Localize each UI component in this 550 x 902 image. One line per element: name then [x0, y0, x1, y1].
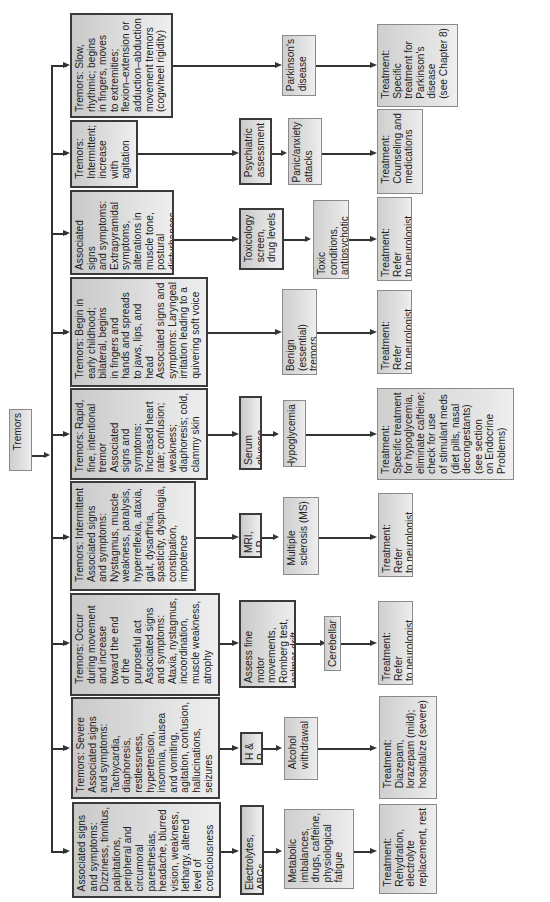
trunk-line [51, 65, 53, 852]
arrow-icon [232, 431, 239, 437]
arrow-icon [63, 230, 70, 236]
branch-8-symptoms: Associated signs and symptoms: Dizziness… [72, 802, 221, 898]
arrow-icon [273, 431, 279, 437]
arrow-icon [370, 431, 377, 437]
branch-1-symptoms: Tremors: Intermittent; increase with agi… [70, 120, 138, 188]
branch-0-symptoms: Tremors: Slow, rhythmic; begins in finge… [70, 13, 173, 118]
connector [173, 65, 276, 67]
arrow-icon [370, 150, 377, 156]
branch-3-symptoms: Tremors: Begin in early childhood; bilat… [70, 277, 208, 387]
arrow-icon [370, 329, 377, 335]
connector [306, 434, 371, 436]
connector [208, 434, 233, 436]
arrow-icon [44, 452, 50, 458]
arrow-icon [370, 62, 377, 68]
arrow-icon [232, 745, 239, 751]
connector [174, 239, 233, 241]
arrow-icon [63, 848, 70, 854]
arrow-icon [305, 236, 311, 242]
branch-3-treatment: Treatment: Refer to neurologist [377, 290, 412, 374]
connector [296, 643, 322, 645]
branch-6-diagnosis: Cerebellar [324, 616, 341, 671]
branch-2-diagnosis: Toxic conditions, antipsychotic drugs, c… [313, 200, 349, 279]
branch-6-treatment: Treatment: Refer to neurologist [378, 601, 413, 685]
arrow-icon [370, 640, 377, 646]
branch-5-test: MRI, LP [239, 513, 262, 558]
branch-8-test: Electrolytes, ABGs [240, 805, 264, 895]
branch-8-diagnosis: Metabolic imbalances, drugs, caffeine, p… [284, 809, 354, 889]
arrow-icon [276, 745, 282, 751]
branch-6-test: Assess fine motor movements, Romberg tes… [239, 600, 296, 688]
arrow-icon [275, 62, 282, 68]
connector [354, 851, 371, 853]
arrow-icon [275, 329, 282, 335]
branch-4-test: Serum glucose [239, 396, 262, 470]
root-node-tremors: Tremors [9, 409, 32, 471]
branch-1-diagnosis: Panic/anxiety attacks [288, 118, 322, 185]
arrow-icon [232, 236, 239, 242]
branch-4-symptoms: Tremors: Rapid, fine, intentional tremor… [70, 388, 208, 480]
branch-4-diagnosis: Hypoglycemia [283, 400, 306, 467]
branch-0-diagnosis: Parkinson's disease [282, 35, 316, 96]
branch-3-diagnosis: Benign (essential) tremors [282, 289, 317, 375]
branch-5-treatment: Treatment: Refer to neurologist [378, 493, 413, 577]
arrow-icon [63, 534, 70, 540]
branch-4-treatment: Treatment: Specific treatment for hypogl… [377, 388, 514, 480]
connector [322, 153, 371, 155]
branch-7-diagnosis: Alcohol withdrawal [284, 717, 318, 780]
connector [284, 239, 306, 241]
connector [318, 748, 371, 750]
arrow-icon [63, 640, 70, 646]
connector [196, 537, 233, 539]
arrow-icon [63, 329, 70, 335]
connector [316, 65, 371, 67]
arrow-icon [370, 848, 377, 854]
connector [317, 332, 371, 334]
arrow-icon [232, 640, 239, 646]
arrow-icon [273, 534, 279, 540]
root-label: Tremors [10, 410, 26, 454]
arrow-icon [370, 236, 377, 242]
arrow-icon [232, 848, 239, 854]
arrow-icon [63, 431, 70, 437]
branch-5-symptoms: Tremors: Intermittent Associated signs a… [70, 481, 196, 591]
connector [138, 153, 233, 155]
arrow-icon [232, 150, 239, 156]
arrow-icon [370, 745, 377, 751]
arrow-icon [232, 534, 239, 540]
connector [319, 537, 371, 539]
arrow-icon [63, 150, 70, 156]
branch-8-treatment: Treatment: Rehydration, electrolyte repl… [379, 804, 437, 894]
branch-7-test: H & P [240, 732, 263, 765]
branch-2-test: Toxicology screen, drug levels [239, 208, 284, 270]
arrow-icon [63, 62, 70, 68]
branch-5-diagnosis: Multiple sclerosis (MS) [283, 497, 319, 575]
branch-7-symptoms: Tremors: Severe Associated signs and sym… [71, 697, 220, 799]
arrow-icon [370, 534, 377, 540]
connector [208, 332, 276, 334]
branch-2-symptoms: Associated signs and symptoms: Extrapyra… [70, 190, 174, 275]
connector [272, 153, 281, 155]
connector [349, 239, 371, 241]
connector [341, 643, 371, 645]
arrow-icon [281, 150, 287, 156]
branch-2-treatment: Treatment: Refer to neurologist [377, 197, 412, 281]
branch-1-treatment: Treatment: Counseling and medications [377, 109, 423, 194]
branch-7-treatment: Treatment: Diazepam, lorazepam (mild); h… [379, 696, 437, 799]
arrow-icon [63, 745, 70, 751]
branch-6-symptoms: Tremors: Occur during movement and incre… [70, 593, 220, 696]
branch-0-treatment: Treatment: Specific treatment for Parkin… [377, 24, 458, 107]
branch-1-test: Psychiatric assessment [239, 118, 272, 185]
arrow-icon [276, 848, 282, 854]
